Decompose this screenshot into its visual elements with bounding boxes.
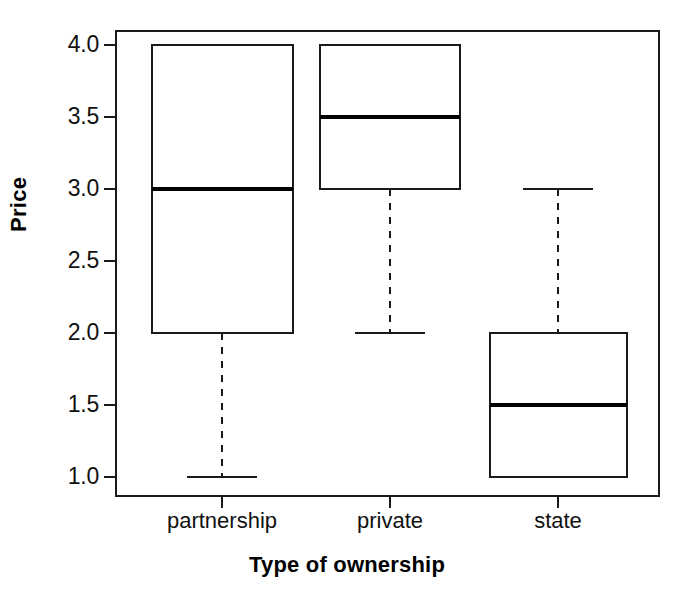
y-axis-title: Price: [6, 177, 32, 232]
x-axis-tick-labels: partnership private state: [115, 508, 660, 542]
y-tick-label: 1.5: [68, 393, 99, 416]
y-tick-label: 1.0: [68, 465, 99, 488]
y-tick-label: 3.5: [68, 105, 99, 128]
plot-frame: [115, 30, 660, 497]
y-tick-label: 2.5: [68, 249, 99, 272]
x-tick-label-partnership: partnership: [167, 508, 277, 534]
x-axis-title: Type of ownership: [0, 552, 694, 578]
x-tick-label-private: private: [357, 508, 423, 534]
x-tick-label-state: state: [534, 508, 582, 534]
y-axis-tick-labels: 4.0 3.5 3.0 2.5 2.0 1.5 1.0: [0, 0, 99, 601]
x-axis-ticks: [222, 496, 558, 508]
boxplot-figure: 4.0 3.5 3.0 2.5 2.0 1.5 1.0 partnership …: [0, 0, 694, 601]
y-tick-label: 3.0: [68, 177, 99, 200]
y-tick-label: 2.0: [68, 321, 99, 344]
y-tick-label: 4.0: [68, 33, 99, 56]
